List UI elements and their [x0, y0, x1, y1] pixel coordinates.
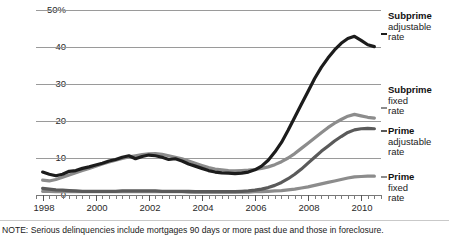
legend-subtitle-line2: rate — [388, 147, 449, 158]
legend-item-prime-adjustable-rate: Prime adjustable rate — [388, 126, 449, 158]
x-tick-minor — [288, 195, 289, 199]
x-axis-label-1998: 1998 — [24, 203, 64, 213]
x-axis-label-2000: 2000 — [77, 203, 117, 213]
chart-legend: Subprime adjustable rate Subprime fixed … — [388, 0, 449, 198]
x-tick-minor — [169, 195, 170, 199]
x-axis-label-2002: 2002 — [130, 203, 170, 213]
x-tick-minor — [189, 195, 190, 199]
x-tick-minor — [89, 195, 90, 199]
x-tick-minor — [268, 195, 269, 199]
x-tick-minor — [242, 195, 243, 199]
x-axis-label-2004: 2004 — [183, 203, 223, 213]
x-tick-major — [361, 195, 362, 201]
x-tick-minor — [341, 195, 342, 199]
x-tick-minor — [182, 195, 183, 199]
x-tick-major — [43, 195, 44, 201]
x-tick-major — [149, 195, 150, 201]
x-tick-minor — [109, 195, 110, 199]
x-tick-minor — [275, 195, 276, 199]
x-tick-minor — [195, 195, 196, 199]
x-tick-minor — [142, 195, 143, 199]
x-tick-minor — [328, 195, 329, 199]
legend-swatch-subprime-adjustable-rate — [381, 33, 387, 35]
x-tick-minor — [335, 195, 336, 199]
legend-title: Subprime — [388, 85, 449, 96]
series-layer — [36, 6, 381, 198]
x-tick-minor — [295, 195, 296, 199]
x-tick-minor — [348, 195, 349, 199]
x-tick-minor — [301, 195, 302, 199]
legend-title: Prime — [388, 172, 449, 183]
x-axis-label-2008: 2008 — [289, 203, 329, 213]
x-tick-major — [202, 195, 203, 201]
x-tick-minor — [248, 195, 249, 199]
x-tick-minor — [69, 195, 70, 199]
x-tick-minor — [155, 195, 156, 199]
x-tick-major — [96, 195, 97, 201]
x-axis-label-2006: 2006 — [236, 203, 276, 213]
legend-item-prime-fixed-rate: Prime fixed rate — [388, 172, 449, 204]
x-tick-minor — [102, 195, 103, 199]
legend-swatch-prime-adjustable-rate — [381, 130, 387, 132]
series-line-subprime-adjustable-rate — [43, 36, 375, 175]
x-tick-minor — [209, 195, 210, 199]
legend-subtitle-line2: rate — [388, 32, 449, 43]
chart-note: NOTE: Serious delinquencies include mort… — [2, 225, 448, 236]
x-tick-minor — [122, 195, 123, 199]
x-tick-minor — [129, 195, 130, 199]
series-line-prime-fixed-rate — [43, 176, 375, 192]
legend-item-subprime-adjustable-rate: Subprime adjustable rate — [388, 11, 449, 43]
x-tick-minor — [315, 195, 316, 199]
x-tick-minor — [368, 195, 369, 199]
legend-item-subprime-fixed-rate: Subprime fixed rate — [388, 85, 449, 117]
x-tick-minor — [136, 195, 137, 199]
legend-swatch-prime-fixed-rate — [381, 176, 387, 178]
x-tick-minor — [175, 195, 176, 199]
x-tick-minor — [63, 195, 64, 199]
x-tick-minor — [49, 195, 50, 199]
x-tick-minor — [162, 195, 163, 199]
x-tick-minor — [381, 195, 382, 199]
x-axis-ticks — [36, 195, 381, 201]
note-divider — [0, 220, 449, 221]
x-tick-minor — [82, 195, 83, 199]
legend-subtitle-line2: rate — [388, 106, 449, 117]
legend-swatch-subprime-fixed-rate — [381, 107, 387, 109]
x-tick-minor — [228, 195, 229, 199]
x-tick-minor — [36, 195, 37, 199]
x-tick-minor — [215, 195, 216, 199]
legend-title: Prime — [388, 126, 449, 137]
x-tick-minor — [235, 195, 236, 199]
x-tick-minor — [56, 195, 57, 199]
x-axis-label-2010: 2010 — [342, 203, 382, 213]
legend-subtitle-line2: rate — [388, 193, 449, 204]
x-tick-minor — [262, 195, 263, 199]
x-tick-minor — [281, 195, 282, 199]
x-tick-minor — [222, 195, 223, 199]
x-tick-minor — [354, 195, 355, 199]
x-tick-major — [308, 195, 309, 201]
x-tick-minor — [374, 195, 375, 199]
chart-figure: 50% 40 30 20 10 0 1998 2000 2002 2004 20… — [0, 0, 449, 240]
x-tick-minor — [116, 195, 117, 199]
legend-title: Subprime — [388, 11, 449, 22]
x-tick-minor — [76, 195, 77, 199]
x-tick-minor — [321, 195, 322, 199]
x-tick-major — [255, 195, 256, 201]
